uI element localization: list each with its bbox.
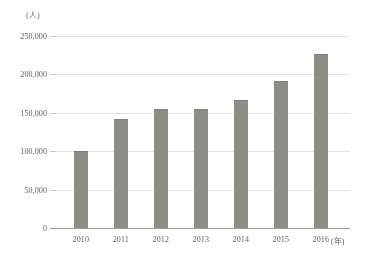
- x-axis-tick-label: 2012: [153, 235, 169, 244]
- y-axis-tick-label: 100,000: [20, 147, 47, 156]
- y-axis-tick: [50, 228, 56, 229]
- bar-chart: (人) 050,000100,000150,000200,000250,000 …: [0, 0, 366, 266]
- x-axis-tick-label: 2014: [233, 235, 249, 244]
- plot-area: 050,000100,000150,000200,000250,000 2010…: [56, 36, 350, 228]
- x-axis-tick-label: 2010: [73, 235, 89, 244]
- bar-group: 2011: [114, 36, 128, 228]
- x-axis-unit-label: (年): [331, 235, 344, 246]
- x-axis-tick-label: 2013: [193, 235, 209, 244]
- y-axis-tick-label: 250,000: [20, 32, 47, 41]
- bar-group: 2015: [274, 36, 288, 228]
- x-axis-tick-label: 2011: [113, 235, 129, 244]
- bars-group: 2010201120122013201420152016: [56, 36, 350, 228]
- bar[interactable]: [274, 81, 288, 228]
- bar[interactable]: [194, 109, 208, 228]
- bar[interactable]: [154, 109, 168, 228]
- y-axis-tick-label: 200,000: [20, 70, 47, 79]
- bar[interactable]: [74, 151, 88, 228]
- bar[interactable]: [114, 119, 128, 228]
- x-axis-tick-label: 2015: [273, 235, 289, 244]
- bar[interactable]: [314, 54, 328, 228]
- y-axis-tick-label: 150,000: [20, 108, 47, 117]
- bar-group: 2016: [314, 36, 328, 228]
- x-axis-tick-label: 2016: [313, 235, 329, 244]
- bar-group: 2010: [74, 36, 88, 228]
- y-axis-unit-label: (人): [26, 9, 40, 20]
- bar-group: 2014: [234, 36, 248, 228]
- y-axis-tick-label: 50,000: [24, 185, 47, 194]
- bar-group: 2012: [154, 36, 168, 228]
- y-axis-tick-label: 0: [43, 224, 47, 233]
- bar-group: 2013: [194, 36, 208, 228]
- axis-baseline: [56, 228, 350, 229]
- bar[interactable]: [234, 100, 248, 228]
